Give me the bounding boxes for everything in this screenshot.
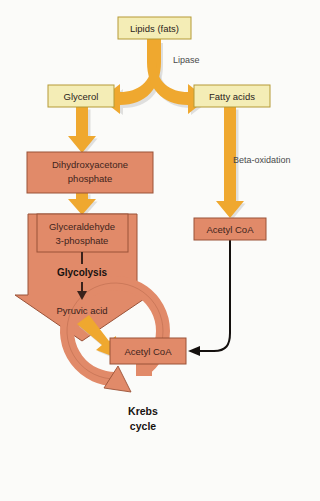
lipids-label: Lipids (fats) bbox=[130, 23, 179, 34]
node-lipids: Lipids (fats) bbox=[118, 17, 191, 39]
dhap-label-line1: Dihydroxyacetone bbox=[52, 159, 128, 170]
acetyl-coa-right-label: Acetyl CoA bbox=[207, 224, 255, 235]
pathway-svg: Lipids (fats) Glycerol Fatty acids Dihyd… bbox=[0, 0, 320, 501]
pyruvic-acid-label: Pyruvic acid bbox=[56, 305, 107, 316]
fatty-acids-label: Fatty acids bbox=[209, 91, 255, 102]
krebs-label-line2: cycle bbox=[130, 420, 156, 432]
lipid-catabolism-diagram: Lipids (fats) Glycerol Fatty acids Dihyd… bbox=[0, 0, 320, 501]
node-acetyl-coa-bottom: Acetyl CoA bbox=[110, 338, 186, 364]
g3p-label-line2: 3-phosphate bbox=[56, 235, 109, 246]
acetyl-coa-bottom-label: Acetyl CoA bbox=[125, 346, 173, 357]
krebs-label-line1: Krebs bbox=[128, 405, 158, 417]
node-dhap: Dihydroxyacetone phosphate bbox=[27, 152, 153, 193]
glycerol-label: Glycerol bbox=[64, 91, 99, 102]
glycolysis-label: Glycolysis bbox=[57, 267, 107, 278]
node-glycerol: Glycerol bbox=[48, 85, 114, 107]
node-fatty-acids: Fatty acids bbox=[194, 85, 270, 107]
lipase-label: Lipase bbox=[173, 55, 200, 65]
g3p-label-line1: Glyceraldehyde bbox=[49, 221, 115, 232]
beta-oxidation-label: Beta-oxidation bbox=[233, 155, 291, 165]
dhap-label-line2: phosphate bbox=[68, 173, 112, 184]
node-acetyl-coa-right: Acetyl CoA bbox=[194, 218, 266, 240]
